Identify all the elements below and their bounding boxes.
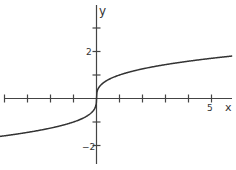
y-tick-label-neg2: −2 (82, 142, 95, 152)
x-tick-label-5: 5 (207, 103, 213, 113)
axes (4, 5, 232, 164)
function-plot: x y 5 2 −2 (0, 0, 236, 170)
function-curve (0, 56, 232, 136)
x-axis-label: x (225, 101, 232, 114)
y-axis-label: y (99, 4, 106, 18)
y-tick-label-2: 2 (86, 47, 92, 57)
